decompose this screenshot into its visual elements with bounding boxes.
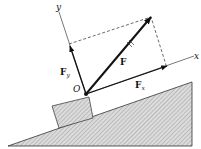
force-label: F [120, 57, 127, 67]
y-axis-label: y [55, 2, 62, 12]
x-axis-label: x [194, 51, 199, 61]
origin-point [84, 92, 88, 96]
origin-label: O [73, 84, 81, 94]
force-y-label: Fy [60, 67, 70, 79]
force-x-label: Fx [135, 80, 145, 91]
incline-force-diagram: y x O F Fy Fx [0, 0, 201, 149]
inclined-plane [8, 82, 192, 146]
